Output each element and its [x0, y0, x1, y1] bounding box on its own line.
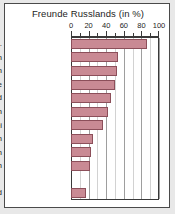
category-label: Weißrussld.: [0, 37, 2, 51]
bar-row: Weißrussld.: [5, 37, 171, 51]
x-tick-label-40: 40: [102, 21, 110, 30]
bar: [71, 161, 90, 171]
bar-track: [71, 186, 159, 200]
bar-row: Slowakei: [5, 119, 171, 133]
bar-track: [71, 78, 159, 92]
chart-card: Freunde Russlands (in %) 020406080100 We…: [4, 3, 170, 208]
x-tick-label-0: 0: [69, 21, 73, 30]
bar: [71, 52, 118, 62]
bar-rows: Weißrussld.IndienKasachstanUkraineFinnla…: [5, 37, 171, 200]
bar: [71, 147, 91, 157]
bar: [71, 66, 117, 76]
bar: [71, 93, 111, 103]
x-tick-label-80: 80: [137, 21, 145, 30]
bar-track: [71, 91, 159, 105]
bar-row: [5, 173, 171, 187]
bar-track: [71, 105, 159, 119]
bar-row: Armenien: [5, 146, 171, 160]
category-label: Turkmenistan: [0, 132, 2, 146]
bar-track: [71, 132, 159, 146]
x-tick-label-100: 100: [153, 21, 166, 30]
bar: [71, 107, 108, 117]
bar-track: [71, 146, 159, 160]
bar-track: [71, 64, 159, 78]
bar-row: Finnland: [5, 91, 171, 105]
bar: [71, 188, 86, 198]
bar-row: Kasachstan: [5, 64, 171, 78]
category-label: Serbien: [0, 105, 2, 119]
category-label: Armenien: [0, 146, 2, 160]
category-label: Slowakei: [0, 119, 2, 133]
bar-track: [71, 173, 159, 187]
bar-row: Deutschland: [5, 186, 171, 200]
x-axis-tick-labels: 020406080100: [71, 4, 159, 30]
bar-row: Indien: [5, 51, 171, 65]
x-axis: [71, 30, 159, 37]
bar-row: Ukraine: [5, 78, 171, 92]
bar-row: Serbien: [5, 105, 171, 119]
x-tick-label-20: 20: [84, 21, 92, 30]
bar-row: Frankreich: [5, 159, 171, 173]
bar-track: [71, 51, 159, 65]
bar: [71, 80, 115, 90]
category-label: Finnland: [0, 91, 2, 105]
category-label: Kasachstan: [0, 64, 2, 78]
category-label: Indien: [0, 51, 2, 65]
bar-track: [71, 119, 159, 133]
category-label: Deutschland: [0, 186, 2, 200]
bar: [71, 134, 93, 144]
bar: [71, 39, 147, 49]
category-label: Frankreich: [0, 159, 2, 173]
bar: [71, 120, 103, 130]
x-tick-label-60: 60: [120, 21, 128, 30]
bar-row: Turkmenistan: [5, 132, 171, 146]
bar-track: [71, 37, 159, 51]
category-label: Ukraine: [0, 78, 2, 92]
bar-track: [71, 159, 159, 173]
